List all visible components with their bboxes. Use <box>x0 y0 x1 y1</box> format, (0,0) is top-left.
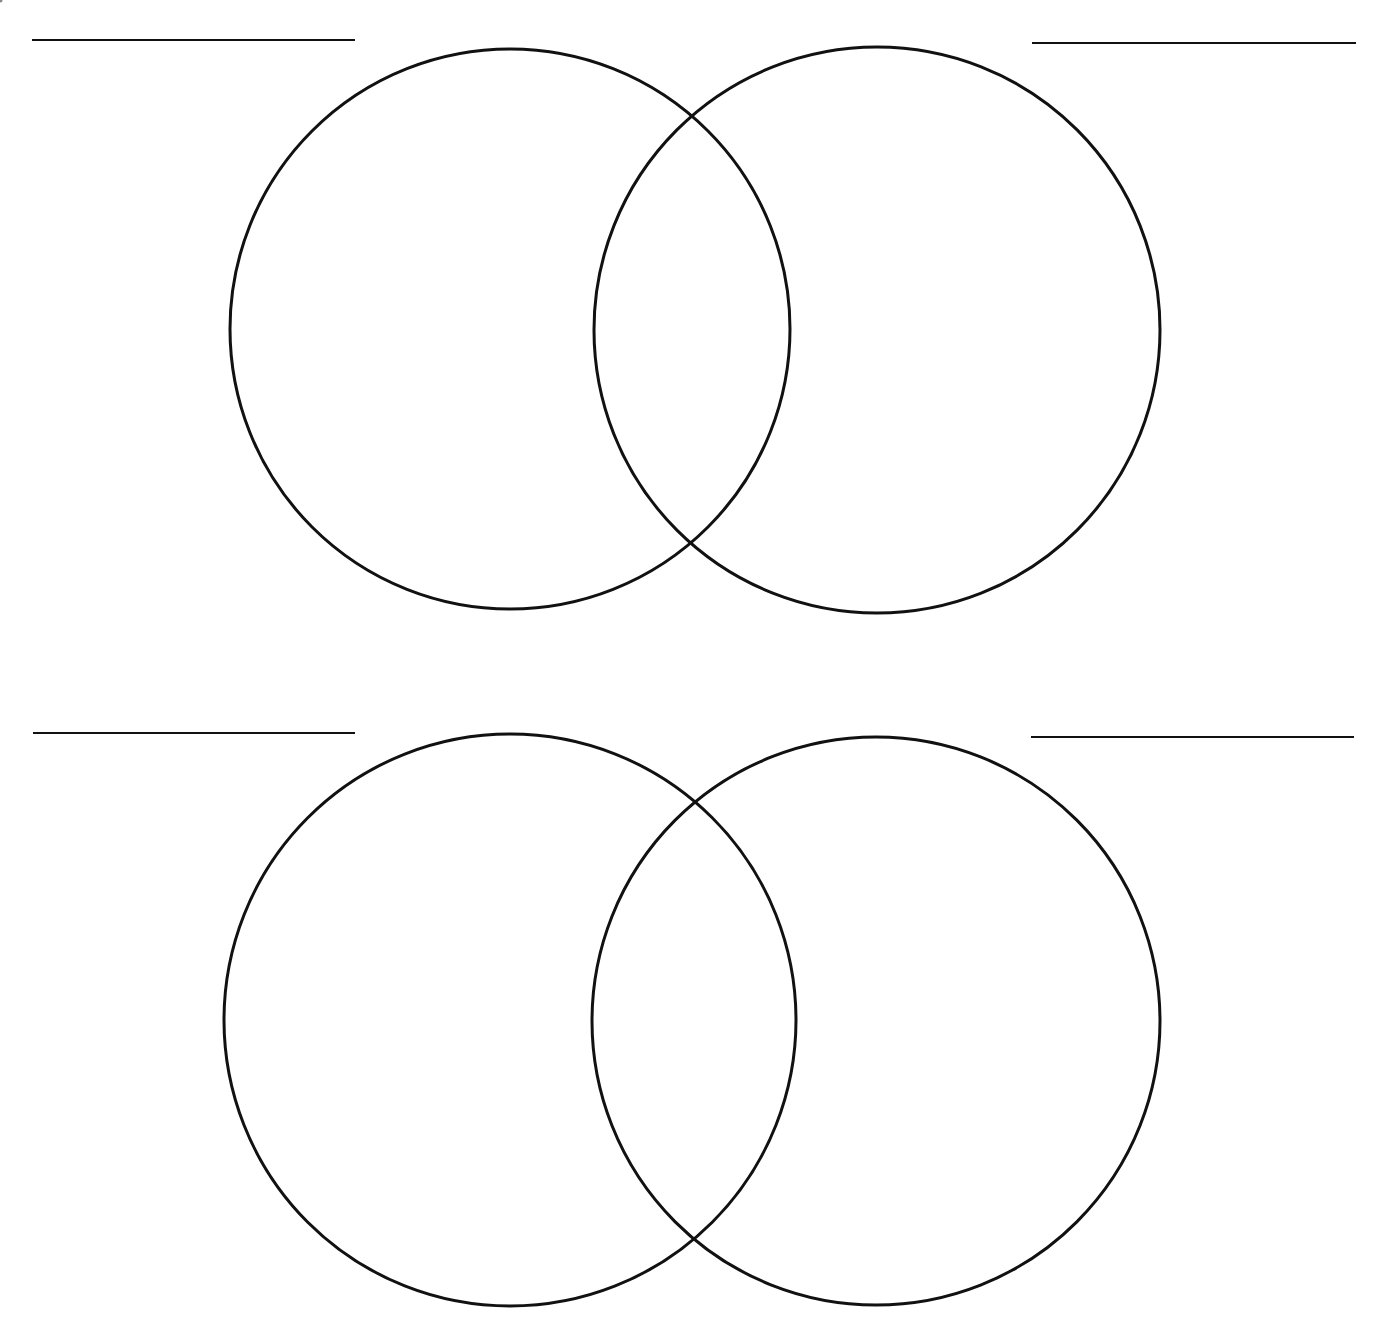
venn-circle-top-right <box>594 47 1160 613</box>
venn-circle-top-left <box>230 49 790 609</box>
venn-circle-bottom-right <box>592 737 1160 1305</box>
venn-worksheet <box>0 0 1390 1342</box>
venn-diagram-top <box>32 40 1356 613</box>
venn-circle-bottom-left <box>224 734 796 1306</box>
paper-speck <box>0 0 3 3</box>
venn-diagram-canvas <box>0 0 1390 1342</box>
venn-diagram-bottom <box>33 733 1354 1306</box>
